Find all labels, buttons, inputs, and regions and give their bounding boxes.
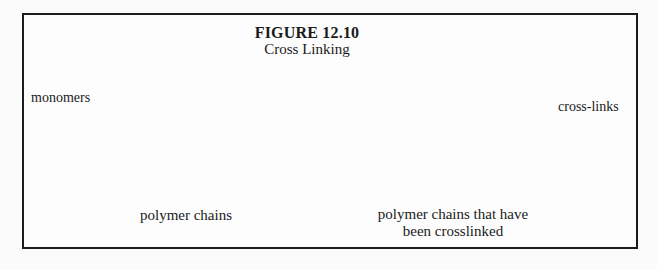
figure-page: FIGURE 12.10 Cross Linking monomers cros… <box>0 0 657 269</box>
left-caption: polymer chains <box>96 207 276 224</box>
right-caption: polymer chains that have been crosslinke… <box>353 206 553 240</box>
crosslinks-label: cross-links <box>558 99 619 115</box>
right-caption-line2: been crosslinked <box>353 223 553 240</box>
figure-subtitle: Cross Linking <box>0 41 614 58</box>
figure-title: FIGURE 12.10 <box>0 24 614 42</box>
right-caption-line1: polymer chains that have <box>353 206 553 223</box>
monomers-label: monomers <box>31 90 90 106</box>
